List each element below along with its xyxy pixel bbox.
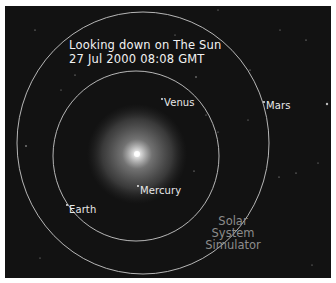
sun-core <box>134 151 140 157</box>
planet-label-mercury: Mercury <box>140 185 181 196</box>
watermark: Solar System Simulator <box>200 215 266 251</box>
planet-label-earth: Earth <box>69 204 96 215</box>
earth-dot <box>66 204 68 206</box>
venus-dot <box>161 98 163 100</box>
watermark-line-3: Simulator <box>200 239 266 251</box>
planet-label-mars: Mars <box>266 100 290 111</box>
mars-dot <box>263 101 265 103</box>
planet-label-venus: Venus <box>164 97 195 108</box>
view-timestamp: 27 Jul 2000 08:08 GMT <box>69 53 205 66</box>
mercury-dot <box>137 185 139 187</box>
view-title: Looking down on The Sun <box>69 39 222 52</box>
